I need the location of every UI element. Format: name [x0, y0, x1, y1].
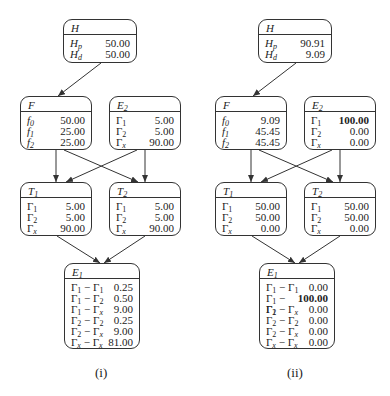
panel-caption: (ii)	[287, 365, 390, 381]
state-value: 45.45	[255, 137, 280, 148]
state-row: Γx − Γx81.00	[71, 337, 133, 348]
state-row: f225.00	[27, 137, 85, 148]
state-value: 50.00	[105, 49, 130, 60]
state-value: 90.00	[149, 137, 174, 148]
node-title: E1	[260, 264, 334, 279]
node-h: HHp90.91Hd9.09	[258, 19, 332, 63]
edge-t2-to-e1	[104, 236, 145, 263]
node-title: F	[216, 97, 286, 112]
node-title: E2	[305, 97, 375, 112]
state-value: 90.00	[149, 223, 174, 234]
state-value: 81.00	[108, 337, 133, 348]
node-f: Ff050.00f125.00f225.00	[20, 96, 92, 150]
state-value: 9.09	[306, 49, 325, 60]
node-e2: E2Γ15.00Γ25.00Γx90.00	[109, 96, 181, 150]
node-title: E2	[110, 97, 180, 112]
edge-h-to-f	[253, 63, 296, 96]
state-value: 0.00	[309, 337, 328, 348]
state-row: Γx0.00	[311, 223, 369, 234]
node-title: T2	[110, 183, 180, 198]
state-value: 25.00	[60, 137, 85, 148]
edge-h-to-f	[58, 63, 101, 96]
state-label: f2	[27, 137, 34, 148]
node-title: T2	[305, 183, 375, 198]
state-row: Hd9.09	[265, 49, 325, 60]
state-value: 0.00	[261, 223, 280, 234]
state-value: 0.00	[350, 223, 369, 234]
state-label: Γx	[116, 137, 126, 148]
state-row: Γx0.00	[222, 223, 280, 234]
state-row: f245.45	[222, 137, 280, 148]
state-row: Hd50.00	[70, 49, 130, 60]
node-t2: T2Γ15.00Γ25.00Γx90.00	[109, 182, 181, 236]
node-title: H	[64, 20, 136, 35]
node-title: T1	[21, 183, 91, 198]
state-row: Γx90.00	[116, 223, 174, 234]
node-e1: E1Γ1 − Γ10.25Γ1 − Γ20.50Γ1 − Γx9.00Γ2 − …	[64, 263, 140, 349]
node-e2: E2Γ1100.00Γ20.00Γx0.00	[304, 96, 376, 150]
state-label: f2	[222, 137, 229, 148]
node-title: E1	[65, 264, 139, 279]
state-label: Hd	[265, 49, 277, 60]
edge-t2-to-e1	[299, 236, 340, 263]
panel-ii: HHp90.91Hd9.09Ff09.09f145.45f245.45E2Γ11…	[195, 0, 390, 396]
state-row: Γx − Γx0.00	[266, 337, 328, 348]
node-h: HHp50.00Hd50.00	[63, 19, 137, 63]
node-f: Ff09.09f145.45f245.45	[215, 96, 287, 150]
state-label: Γx − Γx	[266, 337, 298, 348]
state-row: Γx0.00	[311, 137, 369, 148]
panel-i: HHp50.00Hd50.00Ff050.00f125.00f225.00E2Γ…	[0, 0, 195, 396]
state-value: 90.00	[60, 223, 85, 234]
node-e1: E1Γ1 − Γ10.00Γ1 − Γ2100.00Γ1 − Γx0.00Γ2 …	[259, 263, 335, 349]
state-label: Γx − Γx	[71, 337, 103, 348]
node-title: T1	[216, 183, 286, 198]
state-row: Γx90.00	[27, 223, 85, 234]
state-label: Γx	[311, 137, 321, 148]
edge-t1-to-e1	[252, 236, 295, 263]
node-title: H	[259, 20, 331, 35]
state-label: Γx	[27, 223, 37, 234]
state-label: Hd	[70, 49, 82, 60]
state-label: Γx	[222, 223, 232, 234]
node-t1: T1Γ150.00Γ250.00Γx0.00	[215, 182, 287, 236]
edge-t1-to-e1	[57, 236, 100, 263]
state-label: Γx	[311, 223, 321, 234]
node-title: F	[21, 97, 91, 112]
state-row: Γx90.00	[116, 137, 174, 148]
state-label: Γx	[116, 223, 126, 234]
state-value: 0.00	[350, 137, 369, 148]
node-t2: T2Γ150.00Γ250.00Γx0.00	[304, 182, 376, 236]
node-t1: T1Γ15.00Γ25.00Γx90.00	[20, 182, 92, 236]
